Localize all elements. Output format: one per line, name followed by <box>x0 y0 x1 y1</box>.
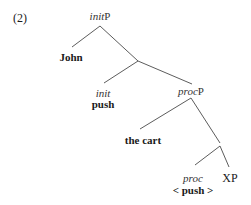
edge-procbar-proc <box>195 146 220 165</box>
edge-procP-thecart <box>140 98 191 129</box>
edge-initP-initbar <box>100 26 138 61</box>
cat-italic: init <box>90 10 105 22</box>
edge-initbar-init <box>104 61 138 83</box>
leaf-the-cart: the cart <box>125 135 161 146</box>
example-number: (2) <box>13 12 27 24</box>
edge-initP-john <box>72 26 100 47</box>
leaf-push-copy: < push > <box>173 185 214 196</box>
leaf-john: John <box>59 52 82 63</box>
edge-procP-procbar <box>191 98 220 143</box>
node-xp: XP <box>222 172 237 184</box>
leaf-push: push <box>92 99 115 110</box>
cat-italic: proc <box>178 85 198 97</box>
cat-suffix: P <box>104 10 110 22</box>
node-initP: initP <box>90 11 111 22</box>
cat-suffix: P <box>198 85 204 97</box>
edge-initbar-procP <box>138 61 192 84</box>
cat-italic: proc <box>183 172 203 184</box>
tree-edges <box>0 0 251 205</box>
node-procP: procP <box>178 86 204 97</box>
edge-procbar-xp <box>220 146 229 167</box>
syntax-tree-diagram: (2) initP John init push procP the cart … <box>0 0 251 205</box>
node-proc: proc <box>183 173 203 184</box>
